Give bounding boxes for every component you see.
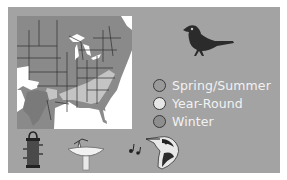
bird-info-card: Spring/Summer Year-Round Winter bbox=[8, 7, 280, 173]
range-map bbox=[17, 16, 132, 129]
year-round-swatch-icon bbox=[153, 97, 166, 110]
songbird-silhouette-icon bbox=[177, 15, 241, 57]
spring-summer-swatch-icon bbox=[153, 79, 166, 92]
birdbath-icon bbox=[66, 138, 106, 172]
legend-item-year-round: Year-Round bbox=[153, 94, 271, 112]
legend-label: Winter bbox=[172, 114, 214, 129]
us-map-icon bbox=[17, 16, 132, 129]
legend-item-spring-summer: Spring/Summer bbox=[153, 76, 271, 94]
bird-head-icon bbox=[144, 131, 184, 171]
legend-item-winter: Winter bbox=[153, 112, 271, 130]
winter-swatch-icon bbox=[153, 115, 166, 128]
legend-label: Spring/Summer bbox=[172, 78, 271, 93]
bird-feeder-icon bbox=[22, 130, 44, 170]
legend-label: Year-Round bbox=[172, 96, 243, 111]
music-note-song-icon bbox=[128, 143, 142, 155]
season-legend: Spring/Summer Year-Round Winter bbox=[153, 76, 271, 130]
